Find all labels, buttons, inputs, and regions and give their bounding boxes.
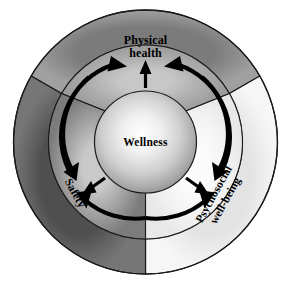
sector-label-physical-health-line1: Physical <box>124 33 168 47</box>
wellness-diagram: Wellness Physical health Psychosocial we… <box>0 0 286 287</box>
wellness-diagram-svg: Wellness Physical health Psychosocial we… <box>0 0 286 287</box>
sector-label-physical-health-line2: health <box>129 46 162 60</box>
center-label: Wellness <box>123 136 168 148</box>
